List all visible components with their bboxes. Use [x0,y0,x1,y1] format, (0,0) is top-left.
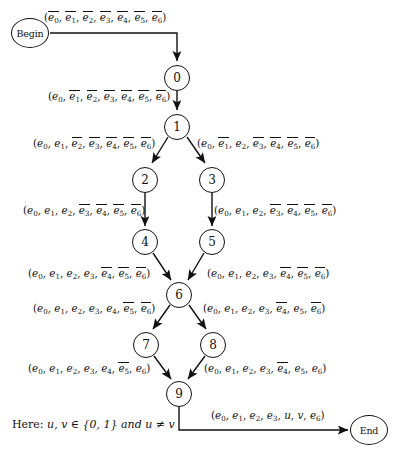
edge-line-8-9 [188,356,205,379]
edge-label-6-8: (e0, e1, e2, e3, e4, e5, e6) [203,301,325,315]
node-9[interactable]: 9 [166,381,192,407]
node-2-label: 2 [141,174,149,186]
node-6-label: 6 [175,289,183,301]
edge-label-6-7: (e0, e1, e2, e3, e4, e5, e6) [33,301,155,315]
node-0-label: 0 [173,72,181,84]
edge-label-0-1: (e0, e1, e2, e3, e4, e5, e6) [48,89,170,103]
edge-line-begin-0 [50,33,177,61]
node-6[interactable]: 6 [166,282,192,308]
node-5-label: 5 [208,236,216,248]
node-9-label: 9 [175,388,183,400]
diagram-canvas: Begin 0 1 2 3 4 5 6 7 8 9 End (e0, e1, e… [0,0,393,459]
edge-label-9-end: (e0, e1, e2, e3, u, v, e6) [211,410,325,422]
edge-label-5-6: (e0, e1, e2, e3, e4, e5, e6) [207,266,329,280]
edge-label-7-9: (e0, e1, e2, e3, e4, e5, e6) [28,361,150,375]
edge-lines-layer [0,0,393,459]
edge-label-3-5: (e0, e1, e2, e3, e4, e5, e6) [214,203,336,217]
node-1[interactable]: 1 [164,114,190,140]
edge-line-5-6 [188,253,204,280]
edge-label-8-9: (e0, e1, e2, e3, e4, e5, e6) [204,361,326,375]
edge-line-7-9 [154,356,171,379]
node-end-label: End [360,425,379,436]
edge-label-2-4: (e0, e1, e2, e3, e4, e5, e6) [23,203,145,217]
edge-line-4-6 [153,253,171,280]
legend-note-prefix: Here: [12,418,44,431]
edge-label-begin-0: (e0, e1, e2, e3, e4, e5, e6) [44,10,166,24]
node-2[interactable]: 2 [132,167,158,193]
node-1-label: 1 [173,121,181,133]
node-3-label: 3 [208,174,216,186]
node-4[interactable]: 4 [132,229,158,255]
legend-note: Here: u, v ∈ {0, 1} and u ≠ v [12,418,175,431]
node-7[interactable]: 7 [133,332,159,358]
node-3[interactable]: 3 [199,167,225,193]
edge-label-1-2: (e0, e1, e2, e3, e4, e5, e6) [33,136,155,150]
node-begin-label: Begin [17,28,44,39]
edge-line-6-7 [153,305,170,329]
node-8-label: 8 [209,339,217,351]
node-8[interactable]: 8 [200,332,226,358]
node-7-label: 7 [142,339,150,351]
node-end[interactable]: End [350,415,388,445]
edge-label-1-3: (e0, e1, e2, e3, e4, e5, e6) [197,136,319,150]
legend-note-body: u, v ∈ {0, 1} and u ≠ v [47,418,175,431]
node-4-label: 4 [141,236,149,248]
edge-label-4-6: (e0, e1, e2, e3, e4, e5, e6) [28,266,150,280]
node-5[interactable]: 5 [199,229,225,255]
node-0[interactable]: 0 [164,65,190,91]
